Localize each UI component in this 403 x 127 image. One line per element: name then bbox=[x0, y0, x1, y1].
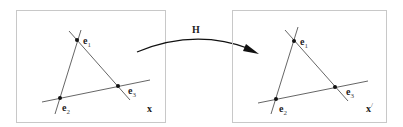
transform-label: H bbox=[192, 24, 200, 35]
transform-arrow: H bbox=[137, 24, 259, 54]
right-panel: e1 e2 e3 x/ bbox=[233, 11, 387, 123]
left-frame bbox=[17, 11, 166, 123]
right-frame bbox=[233, 11, 387, 123]
label-e3: e3 bbox=[128, 85, 136, 99]
point-e2 bbox=[58, 96, 62, 100]
right-space-label: x/ bbox=[366, 101, 373, 114]
arrow-curve bbox=[137, 39, 250, 52]
point-e3 bbox=[116, 84, 120, 88]
label-e2: e2 bbox=[62, 102, 70, 116]
label-e2: e2 bbox=[279, 103, 287, 117]
point-e3 bbox=[333, 85, 337, 89]
line-e1-e2 bbox=[55, 30, 81, 114]
label-e3: e3 bbox=[346, 86, 354, 100]
arrowhead-icon bbox=[243, 44, 259, 54]
point-e1 bbox=[292, 39, 296, 43]
left-panel: e1 e2 e3 x bbox=[17, 11, 166, 123]
point-e2 bbox=[274, 97, 278, 101]
left-space-label: x bbox=[147, 103, 152, 114]
homography-diagram: e1 e2 e3 x H e1 e2 e3 bbox=[0, 0, 403, 127]
label-e1: e1 bbox=[83, 35, 91, 49]
point-e1 bbox=[75, 38, 79, 42]
